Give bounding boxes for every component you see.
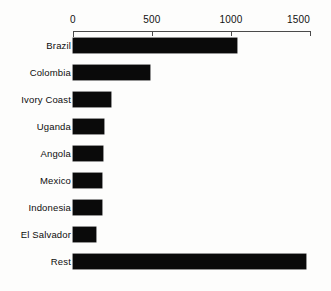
bar-chart: 050010001500 BrazilColombiaIvory CoastUg… [0, 0, 331, 291]
bar-row: Indonesia [0, 200, 331, 227]
bar-category-label: El Salvador [0, 227, 71, 242]
bar-category-label: Rest [0, 254, 71, 269]
bar [73, 92, 111, 107]
bar-row: Colombia [0, 65, 331, 92]
bar-category-label: Indonesia [0, 200, 71, 215]
x-axis-tick [152, 31, 153, 36]
bar-row: Brazil [0, 38, 331, 65]
bar-category-label: Uganda [0, 119, 71, 134]
x-axis-tick-label: 1000 [219, 14, 242, 25]
bar [73, 119, 104, 134]
x-axis-tick [310, 31, 311, 36]
bar-row: Mexico [0, 173, 331, 200]
bar-category-label: Brazil [0, 38, 71, 53]
x-axis-tick-label: 0 [70, 14, 76, 25]
bar-row: Angola [0, 146, 331, 173]
bar [73, 173, 102, 188]
bar-row: Rest [0, 254, 331, 281]
x-axis-line [73, 31, 310, 32]
x-axis-tick-label: 500 [143, 14, 160, 25]
bar-row: El Salvador [0, 227, 331, 254]
bar-category-label: Ivory Coast [0, 92, 71, 107]
bar-category-label: Colombia [0, 65, 71, 80]
bar-category-label: Angola [0, 146, 71, 161]
bar [73, 146, 103, 161]
bar [73, 38, 237, 53]
bar [73, 65, 150, 80]
x-axis-tick [73, 31, 74, 37]
bar-rows: BrazilColombiaIvory CoastUgandaAngolaMex… [0, 38, 331, 281]
x-axis-tick-label: 1500 [287, 14, 310, 25]
bar [73, 227, 96, 242]
bar [73, 254, 306, 269]
bar [73, 200, 102, 215]
bar-row: Uganda [0, 119, 331, 146]
x-axis-tick [231, 31, 232, 36]
bar-row: Ivory Coast [0, 92, 331, 119]
bar-category-label: Mexico [0, 173, 71, 188]
